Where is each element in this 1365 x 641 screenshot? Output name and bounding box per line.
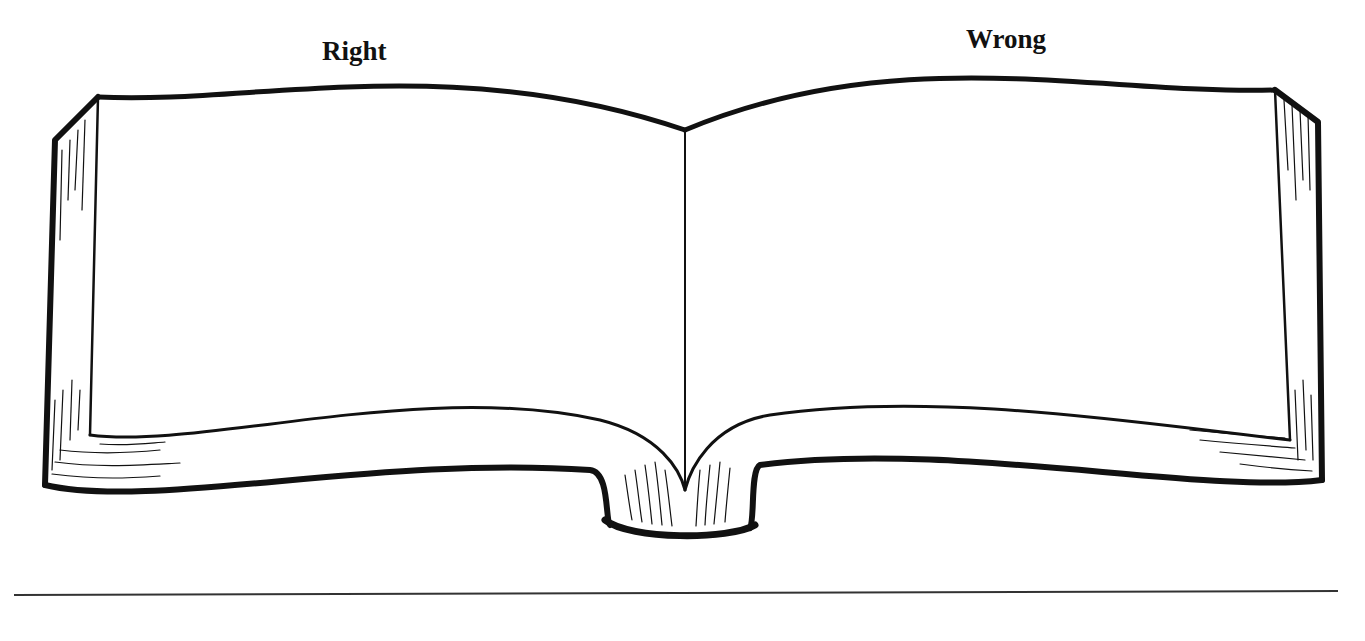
left-outer-bottom xyxy=(45,467,610,525)
right-page-block-inner xyxy=(1275,90,1290,440)
right-outer-bottom xyxy=(750,458,1322,528)
left-page-bottom xyxy=(90,407,685,490)
right-page-top-edge xyxy=(685,78,1275,130)
open-book-illustration xyxy=(0,0,1365,641)
spine-bottom xyxy=(605,520,755,536)
right-cover-edge xyxy=(1275,90,1322,480)
left-bottom-hatching xyxy=(52,442,180,478)
left-page-top-edge xyxy=(98,86,685,130)
left-page-block-inner xyxy=(90,97,98,435)
